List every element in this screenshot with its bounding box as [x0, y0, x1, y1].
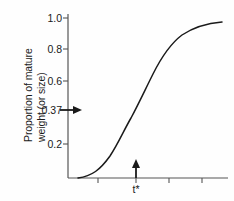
plot-area	[0, 0, 234, 201]
y-threshold-arrow	[60, 106, 82, 114]
x-tstar-arrow-head	[132, 159, 140, 168]
growth-curve-path	[78, 22, 222, 178]
y-threshold-arrow-head	[73, 106, 82, 114]
x-tstar-arrow	[132, 159, 140, 178]
growth-curve-figure: Proportion of mature weight (or size) 1.…	[0, 0, 234, 201]
